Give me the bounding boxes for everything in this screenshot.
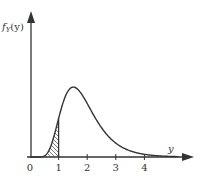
x-tick-label: 3 (113, 162, 119, 173)
density-plot: fY(y) y 01234 (0, 0, 204, 181)
y-axis-arrow-icon (27, 11, 35, 23)
x-axis-label: y (167, 143, 174, 154)
x-tick-label: 0 (27, 162, 33, 173)
y-axis-label: fY(y) (1, 21, 24, 34)
shaded-area (0, 100, 146, 160)
x-tick-label: 1 (55, 162, 61, 173)
x-tick-labels: 01234 (27, 162, 148, 173)
x-tick-label: 2 (84, 162, 90, 173)
x-tick-label: 4 (141, 162, 147, 173)
x-axis-arrow-icon (182, 153, 194, 161)
